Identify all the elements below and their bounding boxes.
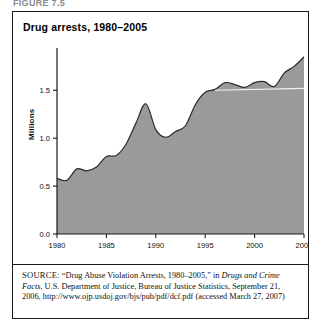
y-tick-label: 0.0	[39, 230, 50, 239]
x-tick-label: 2000	[246, 241, 263, 250]
y-tick-label: 1.0	[39, 134, 50, 143]
x-tick-label: 1995	[197, 241, 214, 250]
source-prefix: SOURCE:	[22, 270, 60, 280]
area-chart: 0.00.51.01.5 198019851990199520002005	[13, 46, 308, 264]
source-line1: “Drug Abuse Violation Arrests, 1980–2005…	[62, 271, 220, 280]
x-tick-group: 198019851990199520002005	[49, 234, 308, 250]
x-tick-label: 2005	[296, 241, 308, 250]
source-note: SOURCE: “Drug Abuse Violation Arrests, 1…	[13, 264, 308, 303]
x-tick-label: 1980	[49, 241, 66, 250]
y-tick-label: 1.5	[39, 86, 50, 95]
y-tick-label: 0.5	[39, 182, 50, 191]
chart-title: Drug arrests, 1980–2005	[23, 21, 147, 33]
x-tick-label: 1990	[147, 241, 164, 250]
y-tick-group: 0.00.51.01.5	[39, 86, 57, 239]
source-line2: , U.S. Department of Justice, Bureau of …	[40, 282, 230, 291]
x-tick-label: 1985	[98, 241, 115, 250]
source-line4: (accessed March 27, 2007)	[195, 292, 284, 301]
source-text: SOURCE: “Drug Abuse Violation Arrests, 1…	[22, 270, 299, 303]
source-italic1: Drugs and	[222, 271, 257, 280]
figure-label: FIGURE 7.5	[13, 0, 133, 10]
figure-panel: Drug arrests, 1980–2005 Millions 0.00.51…	[12, 11, 309, 319]
chart-plot-area: 0.00.51.01.5 198019851990199520002005	[13, 46, 308, 264]
